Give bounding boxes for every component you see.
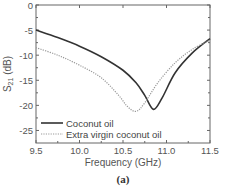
y-tick-label: -10	[19, 50, 33, 61]
x-tick-label: 11.0	[158, 145, 176, 156]
y-tick-label: -25	[19, 125, 33, 136]
x-tick-label: 11.5	[201, 145, 219, 156]
chart: 9.510.010.511.011.5 0-5-10-15-20-25 Coco…	[0, 0, 238, 190]
y-tick-label: -15	[19, 75, 33, 86]
plot-area: 9.510.010.511.011.5 0-5-10-15-20-25 Coco…	[19, 0, 219, 156]
x-axis-label: Frequency (GHz)	[85, 157, 162, 168]
x-tick-label: 9.5	[29, 145, 42, 156]
x-tick-label: 10.0	[70, 145, 89, 156]
series-coconut-oil	[36, 30, 210, 109]
legend-label: Extra virgin coconut oil	[66, 129, 162, 140]
figure-caption: (a)	[117, 173, 130, 186]
series-extra-virgin-coconut-oil	[36, 40, 210, 111]
y-axis-ticks: 0-5-10-15-20-25	[19, 0, 210, 136]
legend-label: Coconut oil	[66, 118, 114, 129]
y-tick-label: -20	[19, 100, 33, 111]
y-tick-label: -5	[25, 25, 33, 36]
y-tick-label: 0	[28, 0, 33, 11]
legend: Coconut oilExtra virgin coconut oil	[41, 118, 162, 140]
series-lines	[36, 30, 210, 111]
x-tick-label: 10.5	[114, 145, 133, 156]
y-axis-label: S21 (dB)	[2, 56, 14, 92]
